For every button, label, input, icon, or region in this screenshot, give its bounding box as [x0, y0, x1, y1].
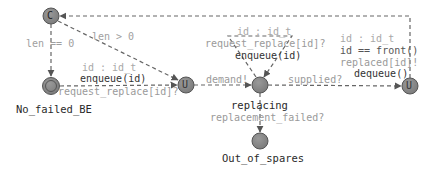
guard-len-eq-0: len == 0: [26, 38, 74, 49]
sync-replacement-failed: replacement_failed?: [210, 112, 324, 123]
update-selfloop: enqueue(id): [235, 50, 301, 61]
sync-selfloop: request_replace[id]?: [205, 38, 325, 49]
update-edge1: enqueue(id): [80, 73, 146, 84]
committed-glyph: C: [47, 10, 53, 21]
guard-len-gt-0: len > 0: [92, 31, 134, 42]
guard-edge4: id == front(): [340, 45, 418, 56]
urgent-glyph-2: U: [406, 80, 412, 91]
edge-replacing-to-u2: [268, 85, 401, 86]
node-replacing[interactable]: [252, 77, 268, 93]
urgent-glyph-1: U: [182, 79, 188, 90]
sync-edge4: replaced[id]!: [340, 57, 418, 68]
node-no-failed-be[interactable]: [43, 78, 60, 95]
select-edge1: id : id_t: [82, 62, 136, 73]
location-name-no-failed-be: No_failed_BE: [16, 104, 92, 115]
select-edge4: id : id_t: [340, 33, 394, 44]
node-out-of-spares[interactable]: [252, 133, 268, 149]
location-name-replacing: replacing: [231, 100, 288, 111]
location-name-out-of-spares: Out_of_spares: [222, 153, 304, 164]
select-selfloop: id : id_t: [237, 26, 291, 37]
sync-demand: demand!: [206, 74, 248, 85]
timed-automaton-diagram: C U U No_failed_BE replacing Out_of_spar…: [0, 0, 434, 173]
sync-edge1: request_replace[id]?: [58, 86, 178, 97]
update-edge4: dequeue(): [354, 68, 408, 79]
sync-supplied: supplied?: [288, 74, 342, 85]
